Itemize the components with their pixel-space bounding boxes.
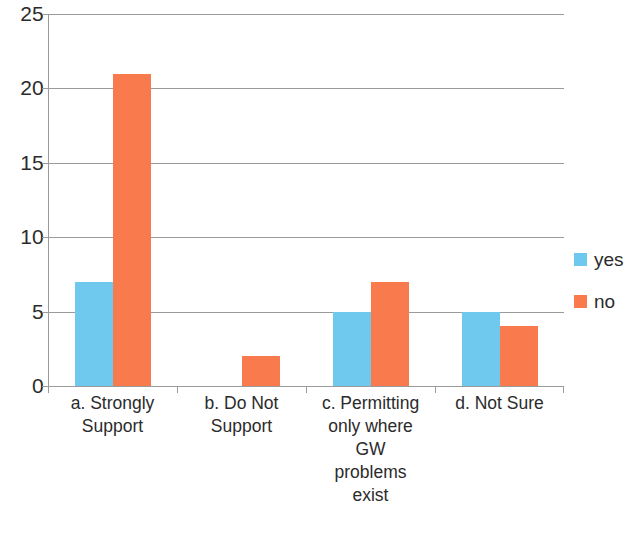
x-axis-category-label: d. Not Sure: [435, 392, 564, 415]
legend-item-yes: yes: [574, 238, 628, 280]
x-axis-category-label: b. Do NotSupport: [177, 392, 306, 438]
bar-no-3: [371, 282, 409, 386]
y-axis-tick-mark: [42, 88, 48, 89]
y-axis-tick-mark: [42, 163, 48, 164]
chart-legend: yesno: [574, 238, 628, 322]
x-axis-category-label: c. Permittingonly whereGWproblemsexist: [306, 392, 435, 507]
y-axis-tick-label: 15: [6, 152, 44, 173]
x-axis-category-label-line: a. Strongly: [48, 392, 177, 415]
x-axis-category-label-line: Support: [177, 415, 306, 438]
x-axis-category-label-line: exist: [306, 484, 435, 507]
x-axis-category-label-line: c. Permitting: [306, 392, 435, 415]
bar-no-4: [500, 326, 538, 386]
bar-no-2: [242, 356, 280, 386]
legend-item-no: no: [574, 280, 628, 322]
y-axis: 2520151050: [0, 0, 44, 400]
x-axis-category-label-line: GW: [306, 438, 435, 461]
bar-yes-4: [462, 312, 500, 386]
x-axis-category-label-line: problems: [306, 461, 435, 484]
y-axis-tick-label: 20: [6, 77, 44, 98]
bar-yes-3: [333, 312, 371, 386]
bar-no-1: [113, 74, 151, 386]
x-axis-category-label-line: Support: [48, 415, 177, 438]
y-axis-tick-mark: [42, 237, 48, 238]
y-axis-tick-label: 10: [6, 226, 44, 247]
legend-label: yes: [594, 250, 624, 269]
plot-area: [48, 14, 564, 386]
y-axis-line: [48, 14, 49, 386]
gridline: [48, 14, 564, 15]
yes-color-swatch: [574, 253, 587, 266]
x-axis: a. StronglySupportb. Do NotSupportc. Per…: [48, 392, 564, 542]
y-axis-tick-label: 5: [6, 301, 44, 322]
y-axis-tick-label: 25: [6, 3, 44, 24]
bar-yes-1: [75, 282, 113, 386]
no-color-swatch: [574, 295, 587, 308]
bar-chart: 2520151050 a. StronglySupportb. Do NotSu…: [0, 0, 628, 542]
legend-label: no: [594, 292, 615, 311]
x-axis-category-label: a. StronglySupport: [48, 392, 177, 438]
x-axis-category-label-line: d. Not Sure: [435, 392, 564, 415]
y-axis-tick-mark: [42, 312, 48, 313]
y-axis-tick-mark: [42, 14, 48, 15]
x-axis-category-label-line: b. Do Not: [177, 392, 306, 415]
x-axis-category-label-line: only where: [306, 415, 435, 438]
y-axis-tick-label: 0: [6, 375, 44, 396]
